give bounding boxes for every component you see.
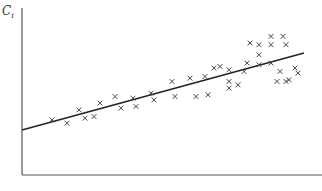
x-marker [203,74,208,79]
x-marker [275,79,280,84]
x-marker [278,69,283,74]
x-marker [293,66,298,71]
regression-line [22,53,304,130]
x-marker [170,79,175,84]
scatter-chart [0,0,322,191]
x-marker [65,121,70,126]
y-axis-label-subscript: i [11,11,14,20]
x-marker [245,61,250,66]
x-marker [218,64,223,69]
y-axis-label: Ci [2,4,14,20]
x-marker [248,41,253,46]
x-marker [227,86,232,91]
x-marker [113,94,118,99]
x-marker [188,76,193,81]
x-marker [236,82,241,87]
x-marker [212,66,217,71]
x-marker [257,52,262,57]
x-marker [227,67,232,72]
x-marker [134,104,139,109]
x-marker [152,97,157,102]
x-marker [98,101,103,106]
x-marker [194,94,199,99]
x-marker [296,71,301,76]
x-marker [281,34,286,39]
x-marker [257,42,262,47]
x-marker [269,42,274,47]
x-marker [83,116,88,121]
y-axis-label-main: C [2,4,11,18]
x-marker [92,114,97,119]
x-marker [227,79,232,84]
x-marker [119,106,124,111]
x-marker [173,94,178,99]
x-marker [269,34,274,39]
x-marker [206,92,211,97]
x-marker [77,107,82,112]
x-marker [284,42,289,47]
